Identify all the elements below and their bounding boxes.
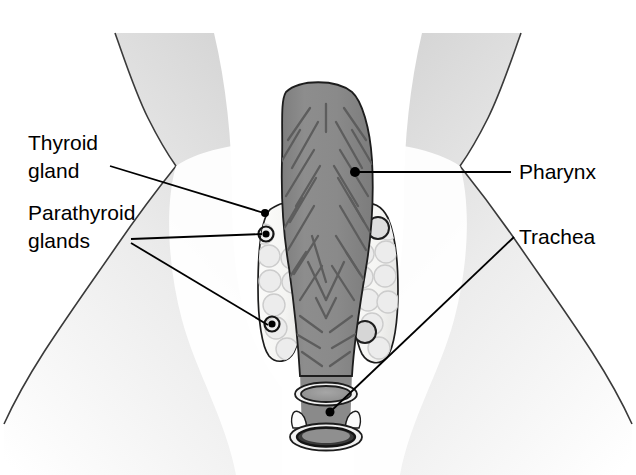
pharynx-dot (350, 167, 360, 177)
label-thyroid-gland-line1: Thyroid (28, 131, 98, 154)
label-trachea: Trachea (519, 225, 596, 248)
label-parathyroid-glands-line2: glands (28, 229, 90, 252)
anatomy-diagram-svg: Thyroid gland Parathyroid glands Pharynx… (0, 0, 636, 475)
label-pharynx: Pharynx (519, 160, 597, 183)
anatomy-figure: Thyroid gland Parathyroid glands Pharynx… (0, 0, 636, 475)
trachea-ring-lower (290, 424, 362, 451)
thyroid-gland-dot (261, 209, 269, 217)
label-thyroid-gland-line2: gland (28, 159, 79, 182)
trachea-dot (326, 408, 335, 417)
label-parathyroid-glands-line1: Parathyroid (28, 201, 135, 224)
